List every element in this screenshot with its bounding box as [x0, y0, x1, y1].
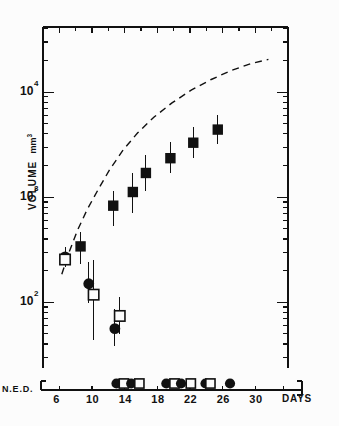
marker-open-square-0: [60, 254, 70, 264]
y-tick-label-10000: 10: [20, 84, 33, 98]
chart-svg: [0, 0, 339, 426]
ned-marker-filled-circle-6: [176, 378, 186, 388]
x-tick-label-18: 18: [151, 393, 164, 405]
ned-marker-open-square-7: [186, 379, 195, 388]
y-axis-unit: mm3: [28, 134, 38, 154]
x-tick-label-6: 6: [53, 393, 60, 405]
marker-filled-square-4: [165, 153, 175, 163]
marker-filled-square-5: [188, 138, 198, 148]
y-axis-unit-exponent: 3: [26, 134, 33, 138]
marker-filled-circle-2: [109, 323, 120, 334]
marker-filled-square-3: [141, 168, 151, 178]
x-tick-label-26: 26: [217, 393, 230, 405]
marker-open-square-1: [88, 289, 98, 299]
marker-filled-square-2: [128, 187, 138, 197]
x-tick-label-10: 10: [86, 393, 99, 405]
ned-marker-open-square-3: [135, 379, 144, 388]
x-axis-title: DAYS: [282, 393, 312, 404]
marker-open-square-2: [115, 311, 125, 321]
ned-row-label: N.E.D.: [2, 384, 33, 394]
x-tick-label-22: 22: [184, 393, 197, 405]
figure-canvas: 6101418222630102103104VOLUMEmm3N.E.D.DAY…: [0, 0, 339, 426]
y-tick-exponent-10000: 4: [34, 79, 38, 88]
x-tick-label-30: 30: [249, 393, 262, 405]
marker-filled-square-0: [75, 241, 85, 251]
reference-curve-dashed: [62, 59, 269, 274]
ned-marker-filled-circle-10: [225, 378, 235, 388]
y-axis-title: VOLUMEmm3: [22, 134, 40, 210]
y-tick-label-100: 10: [20, 294, 33, 308]
marker-filled-square-1: [108, 200, 118, 210]
y-tick-exponent-100: 2: [34, 289, 38, 298]
marker-filled-square-6: [213, 124, 223, 134]
marker-filled-circle-1: [83, 278, 94, 289]
ned-marker-open-square-9: [206, 379, 215, 388]
y-axis-title-text: VOLUME: [27, 161, 38, 210]
x-tick-label-14: 14: [119, 393, 132, 405]
